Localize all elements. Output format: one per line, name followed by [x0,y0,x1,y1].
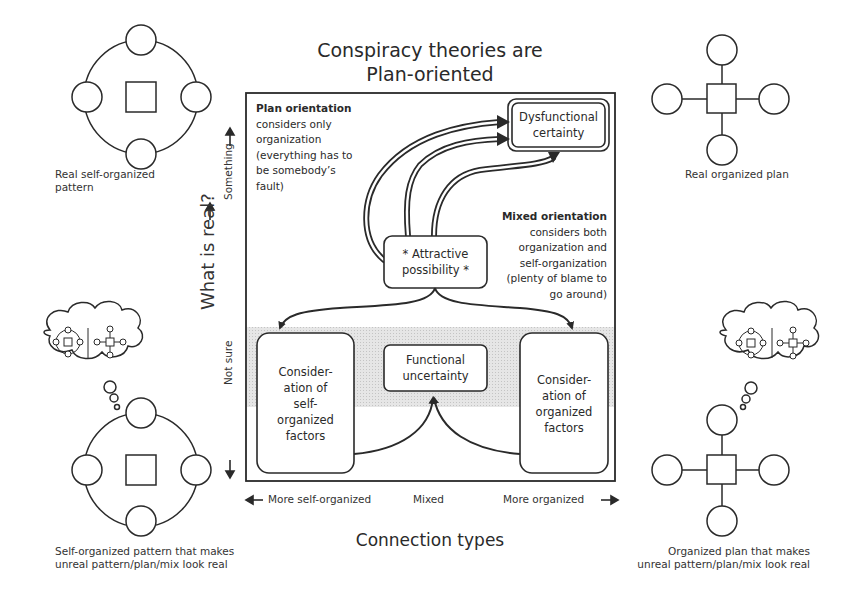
title-line-1: Conspiracy theories are [240,38,620,62]
mixed-orientation-note: Mixed orientation considers both organiz… [484,209,607,302]
title-line-2: Plan-oriented [240,62,620,86]
thought-bubble-left [44,301,143,409]
x-axis-right-label: More organized [503,493,584,505]
caption-line: Real organized plan [685,168,789,181]
note-line: considers both [484,225,607,241]
dysfunctional-certainty-label: Dysfunctional certainty [512,109,605,141]
node-line: factors [257,428,354,444]
node-line: certainty [512,125,605,141]
self-organized-ring-with-thought-icon [72,398,211,536]
attractive-possibility-label: * Attractive possibility * [384,246,487,278]
caption-line: Organized plan that makes [620,545,810,558]
x-axis-label: Connection types [280,528,580,552]
caption-line: Real self-organized [55,168,155,181]
note-line: go around) [484,287,607,303]
diagram-title: Conspiracy theories are Plan-oriented [240,38,620,86]
note-line: organization [256,132,376,148]
node-line: factors [520,420,608,436]
self-organized-factors-label: Consider- ation of self- organized facto… [257,364,354,444]
node-line: Consider- [257,364,354,380]
diagram-graphics [0,0,851,601]
y-axis-label: What is real? [197,193,218,310]
node-line: ation of [520,388,608,404]
x-axis-middle-label: Mixed [413,493,444,505]
thought-bubble-right [720,301,819,409]
mixed-orientation-heading: Mixed orientation [502,210,607,222]
note-line: (everything has to [256,148,376,164]
note-line: (plenty of blame to [484,271,607,287]
node-line: Functional [384,352,487,368]
caption-real-self-organized: Real self-organized pattern [55,168,155,194]
caption-organized-unreal: Organized plan that makes unreal pattern… [620,545,810,571]
caption-real-organized-plan: Real organized plan [685,168,789,181]
node-line: self- [257,396,354,412]
plan-orientation-note: Plan orientation considers only organiza… [256,101,376,194]
note-line: be somebody’s [256,163,376,179]
node-line: organized [257,412,354,428]
note-line: fault) [256,179,376,195]
node-line: ation of [257,380,354,396]
node-line: * Attractive [384,246,487,262]
note-line: considers only [256,117,376,133]
node-line: possibility * [384,262,487,278]
organized-hub-with-thought-icon [652,405,789,536]
caption-line: pattern [55,181,155,194]
y-axis-bottom-label: Not sure [222,341,234,385]
node-line: uncertainty [384,368,487,384]
node-line: organized [520,404,608,420]
node-line: Consider- [520,372,608,388]
node-line: Dysfunctional [512,109,605,125]
organized-factors-label: Consider- ation of organized factors [520,372,608,436]
self-organized-ring-icon [72,25,211,169]
caption-line: unreal pattern/plan/mix look real [620,558,810,571]
y-axis-top-label: Something [222,143,234,200]
x-axis-left-label: More self-organized [268,493,371,505]
caption-self-organized-unreal: Self-organized pattern that makes unreal… [55,545,234,571]
organized-hub-icon [652,35,789,165]
functional-uncertainty-label: Functional uncertainty [384,352,487,384]
plan-orientation-heading: Plan orientation [256,102,352,114]
caption-line: unreal pattern/plan/mix look real [55,558,234,571]
note-line: self-organization [484,256,607,272]
caption-line: Self-organized pattern that makes [55,545,234,558]
note-line: organization and [484,240,607,256]
